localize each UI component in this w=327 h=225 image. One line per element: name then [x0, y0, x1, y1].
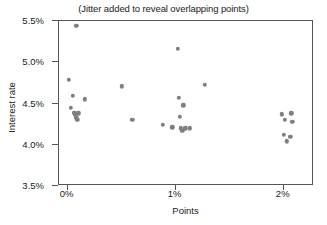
- data-point: [203, 82, 207, 86]
- data-point: [76, 111, 80, 115]
- data-point: [176, 47, 180, 51]
- x-axis-label: Points: [58, 205, 313, 216]
- data-point: [119, 84, 123, 88]
- y-tick-label: 4.0%: [22, 138, 44, 149]
- data-point: [71, 94, 75, 98]
- data-point: [285, 139, 289, 143]
- plot-area: [58, 20, 313, 185]
- y-tick-label: 5.0%: [22, 56, 44, 67]
- data-point: [69, 105, 73, 109]
- y-tick-mark: [52, 185, 58, 186]
- data-point: [75, 118, 79, 122]
- data-points-layer: [59, 21, 312, 184]
- y-axis-label: Interest rate: [6, 68, 17, 148]
- data-point: [290, 119, 294, 123]
- data-point: [283, 118, 287, 122]
- data-point: [177, 96, 181, 100]
- data-point: [130, 118, 134, 122]
- y-tick-label: 3.5%: [22, 180, 44, 191]
- y-tick-label: 4.5%: [22, 97, 44, 108]
- x-tick-mark: [67, 185, 68, 190]
- x-tick-mark: [283, 185, 284, 190]
- data-point: [83, 97, 87, 101]
- data-point: [279, 112, 283, 116]
- data-point: [170, 125, 174, 129]
- y-tick-label: 5.5%: [22, 15, 44, 26]
- scatter-plot-figure: (Jitter added to reveal overlapping poin…: [0, 0, 327, 225]
- data-point: [67, 77, 71, 81]
- data-point: [178, 114, 182, 118]
- data-point: [289, 111, 293, 115]
- data-point: [74, 24, 78, 28]
- data-point: [161, 123, 165, 127]
- data-point: [181, 103, 185, 107]
- data-point: [288, 134, 292, 138]
- x-tick-mark: [175, 185, 176, 190]
- data-point: [188, 126, 192, 130]
- data-point: [282, 133, 286, 137]
